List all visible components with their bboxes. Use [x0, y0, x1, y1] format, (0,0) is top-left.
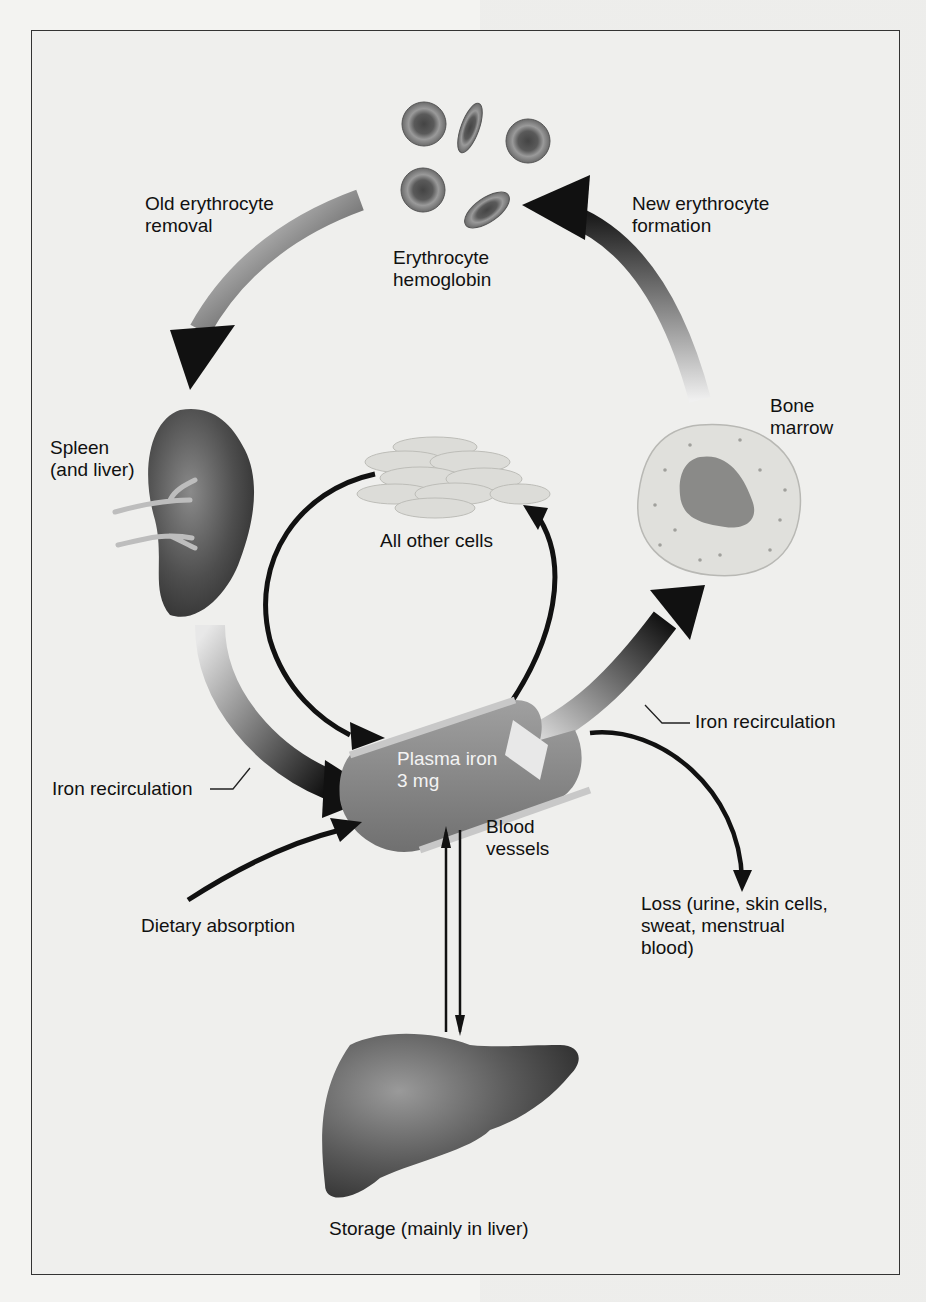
- label-all-other-cells: All other cells: [380, 530, 493, 552]
- label-iron-recirculation-right: Iron recirculation: [695, 711, 835, 733]
- label-plasma-iron: Plasma iron 3 mg: [397, 748, 497, 792]
- label-new-erythrocyte-formation: New erythrocyte formation: [632, 193, 769, 237]
- label-bone-marrow: Bone marrow: [770, 395, 833, 439]
- label-spleen-and-liver: Spleen (and liver): [50, 437, 134, 481]
- loss-arrow: [590, 732, 752, 892]
- liver-icon: [322, 1034, 579, 1198]
- label-erythrocyte-hemoglobin: Erythrocyte hemoglobin: [393, 247, 491, 291]
- iron-cycle-diagram: [0, 0, 926, 1302]
- storage-exchange-arrows: [441, 826, 465, 1036]
- dietary-absorption-arrow: [188, 818, 362, 900]
- iron-recirculation-right-leader: [645, 705, 690, 723]
- label-blood-vessels: Blood vessels: [486, 816, 549, 860]
- label-old-erythrocyte-removal: Old erythrocyte removal: [145, 193, 274, 237]
- label-iron-recirculation-left: Iron recirculation: [52, 778, 192, 800]
- label-storage: Storage (mainly in liver): [329, 1218, 529, 1240]
- erythrocytes-icon: [401, 100, 550, 234]
- iron-recirculation-left-leader: [210, 768, 250, 789]
- cells-to-plasma-arrow: [495, 505, 555, 725]
- spleen-icon: [115, 409, 254, 617]
- plasma-to-marrow-arrow: [520, 585, 705, 745]
- label-loss: Loss (urine, skin cells, sweat, menstrua…: [641, 893, 828, 959]
- bone-marrow-cell-icon: [638, 425, 801, 576]
- plasma-to-cells-arrow: [266, 474, 385, 750]
- tissue-cells-icon: [357, 437, 550, 518]
- label-dietary-absorption: Dietary absorption: [141, 915, 295, 937]
